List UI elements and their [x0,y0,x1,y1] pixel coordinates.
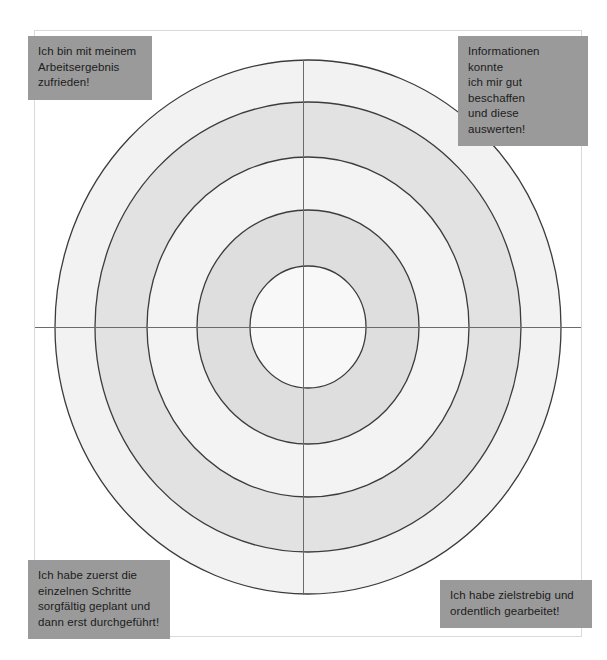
target-diagram-page: Ich bin mit meinem Arbeitsergebnis zufri… [0,0,607,660]
statement-label-top-left: Ich bin mit meinem Arbeitsergebnis zufri… [28,36,152,100]
statement-label-top-right: Informationen konnte ich mir gut beschaf… [458,36,588,146]
statement-label-bottom-left: Ich habe zuerst die einzelnen Schritte s… [28,560,170,639]
statement-label-bottom-right: Ich habe zielstrebig und ordentlich gear… [440,580,592,628]
